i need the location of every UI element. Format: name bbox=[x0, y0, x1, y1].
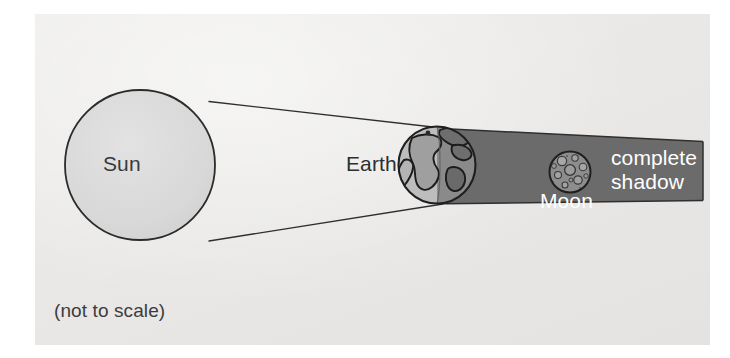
not-to-scale-caption: (not to scale) bbox=[54, 300, 165, 321]
sun-label: Sun bbox=[103, 152, 141, 176]
complete-shadow-label-line1: complete bbox=[611, 146, 697, 169]
moon-cratered-circle-icon bbox=[550, 150, 591, 193]
moon-label: Moon bbox=[540, 189, 593, 213]
upper-tangent-ray bbox=[209, 102, 446, 129]
earth-label: Earth bbox=[346, 152, 397, 176]
complete-shadow-label-line2: shadow bbox=[611, 170, 684, 193]
diagram-canvas: Sun Earth Moon complete shadow (not to s… bbox=[0, 0, 730, 358]
lower-tangent-ray bbox=[209, 204, 446, 242]
complete-shadow-label: complete shadow bbox=[611, 146, 697, 193]
